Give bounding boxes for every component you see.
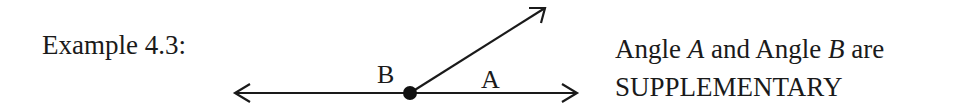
caption: Angle A and Angle B are SUPPLEMENTARY [615, 30, 884, 106]
vertex-dot [403, 86, 417, 100]
caption-word: and Angle [711, 34, 821, 64]
angle-variable-a: A [688, 34, 705, 64]
caption-word: are [851, 34, 884, 64]
caption-line-2: SUPPLEMENTARY [615, 68, 884, 106]
caption-word: Angle [615, 34, 681, 64]
caption-line-1: Angle A and Angle B are [615, 30, 884, 68]
angle-b-label: B [377, 60, 394, 89]
angle-variable-b: B [828, 34, 845, 64]
angle-a-label: A [481, 65, 500, 94]
diagonal-ray [410, 8, 545, 93]
